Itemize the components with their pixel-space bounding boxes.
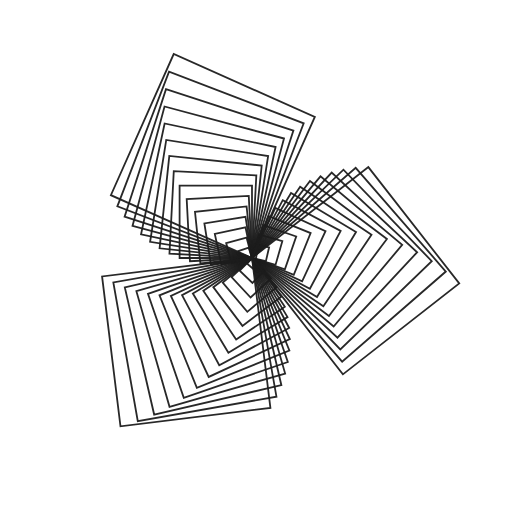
figure-page	[0, 0, 510, 516]
spiral-squares-artwork	[0, 0, 510, 516]
